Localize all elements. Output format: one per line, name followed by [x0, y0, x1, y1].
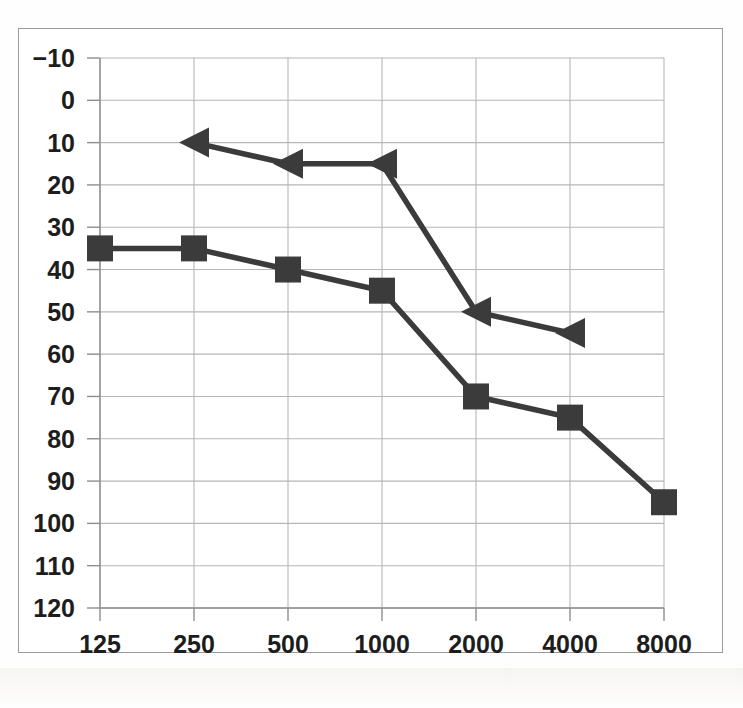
x-tick-label: 250 — [173, 630, 215, 658]
y-tick-label: 0 — [61, 86, 75, 114]
y-tick-label: 70 — [47, 382, 75, 410]
data-point-square — [181, 235, 207, 261]
y-tick-label: 30 — [47, 213, 75, 241]
data-point-square — [557, 405, 583, 431]
x-axis-labels: 1252505001000200040008000 — [79, 630, 692, 658]
y-axis-labels: −100102030405060708090100110120 — [33, 44, 75, 622]
y-axis-tickmarks — [87, 58, 100, 608]
audiogram-chart: −100102030405060708090100110120 12525050… — [0, 0, 743, 708]
x-tick-label: 1000 — [354, 630, 410, 658]
x-tick-label: 500 — [267, 630, 309, 658]
y-tick-label: 100 — [33, 509, 75, 537]
y-tick-label: −10 — [33, 44, 75, 72]
x-tick-label: 2000 — [448, 630, 504, 658]
y-tick-label: 50 — [47, 298, 75, 326]
data-point-square — [369, 278, 395, 304]
y-tick-label: 110 — [35, 552, 75, 580]
y-tick-label: 120 — [33, 594, 75, 622]
y-tick-label: 60 — [47, 340, 75, 368]
x-axis-tickmarks — [100, 608, 664, 621]
data-point-square — [463, 383, 489, 409]
y-tick-label: 40 — [47, 256, 75, 284]
x-tick-label: 8000 — [636, 630, 692, 658]
y-tick-label: 20 — [47, 171, 75, 199]
audiogram-svg: −100102030405060708090100110120 12525050… — [0, 0, 743, 708]
y-tick-label: 10 — [47, 129, 75, 157]
page-canvas: −100102030405060708090100110120 12525050… — [0, 0, 743, 708]
y-tick-label: 80 — [47, 425, 75, 453]
data-point-square — [87, 235, 113, 261]
x-tick-label: 125 — [79, 630, 121, 658]
scan-edge-artifact — [0, 668, 743, 708]
data-point-square — [651, 489, 677, 515]
data-point-square — [275, 257, 301, 283]
y-tick-label: 90 — [47, 467, 75, 495]
x-tick-label: 4000 — [542, 630, 598, 658]
